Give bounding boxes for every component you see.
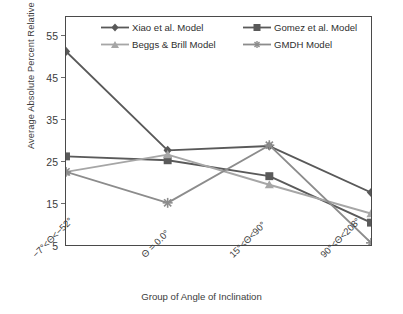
data-point: [264, 140, 274, 150]
legend-label-xiao: Xiao et al. Model: [132, 22, 203, 33]
series-line-3: [66, 145, 371, 243]
data-point: [66, 152, 70, 160]
legend-marker-diamond-icon: [100, 22, 130, 33]
chart-figure: Average Absolute Percent Relative Error …: [0, 0, 403, 314]
series-line-1: [66, 156, 371, 222]
y-tick-55: 55: [32, 30, 58, 42]
legend-item-beggs-brill[interactable]: Beggs & Brill Model: [100, 39, 242, 50]
series-line-2: [66, 155, 371, 214]
y-tick-25: 25: [32, 156, 58, 168]
series-line-0: [66, 51, 371, 192]
legend-item-gmdh[interactable]: GMDH Model: [242, 39, 362, 50]
legend-label-gmdh: GMDH Model: [274, 39, 332, 50]
y-tick-45: 45: [32, 72, 58, 84]
data-point: [163, 198, 173, 208]
y-tick-35: 35: [32, 114, 58, 126]
y-axis-tick-labels: 55 45 35 25 15 5: [32, 0, 58, 314]
data-point: [265, 172, 273, 180]
legend-item-gomez[interactable]: Gomez et al. Model: [242, 22, 362, 33]
legend-marker-square-icon: [242, 22, 272, 33]
x-axis-title: Group of Angle of Inclination: [0, 291, 403, 302]
legend-label-gomez: Gomez et al. Model: [274, 22, 357, 33]
y-tick-15: 15: [32, 198, 58, 210]
legend-marker-star-icon: [242, 39, 272, 50]
legend-item-xiao[interactable]: Xiao et al. Model: [100, 22, 242, 33]
data-point: [367, 188, 371, 197]
data-point: [367, 219, 371, 227]
chart-legend: Xiao et al. Model Gomez et al. Model Beg…: [100, 19, 362, 55]
legend-label-beggs-brill: Beggs & Brill Model: [132, 39, 216, 50]
legend-marker-triangle-icon: [100, 39, 130, 50]
